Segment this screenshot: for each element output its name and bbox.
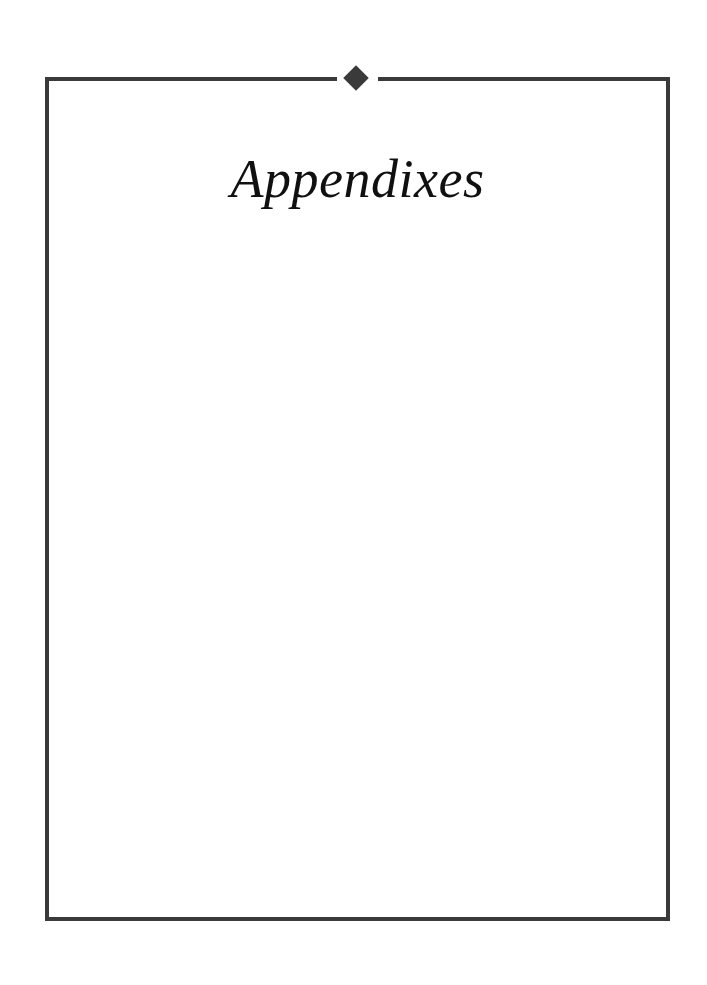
- part-title-page: Appendixes: [0, 0, 707, 985]
- top-rule-right-segment: [378, 77, 670, 81]
- page-title: Appendixes: [45, 150, 670, 209]
- diamond-icon: [343, 65, 369, 91]
- diamond-shape: [343, 65, 368, 90]
- top-rule-left-segment: [45, 77, 337, 81]
- bottom-rule: [45, 917, 670, 921]
- page-body: [49, 240, 666, 917]
- title-block: Appendixes: [45, 150, 670, 209]
